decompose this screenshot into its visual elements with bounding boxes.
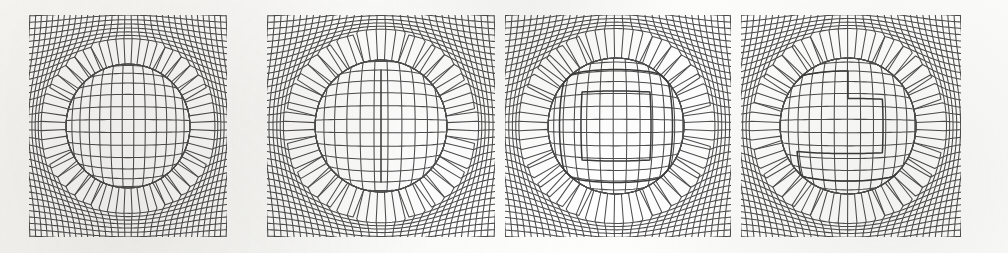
mesh-line-horizontal <box>741 6 960 15</box>
mesh-line-vertical <box>960 16 969 237</box>
mesh-line-vertical <box>21 16 30 236</box>
mesh-line-horizontal <box>731 136 969 146</box>
mesh-line-horizontal <box>502 198 733 224</box>
mesh-line-horizontal <box>268 7 494 16</box>
mesh-line-horizontal <box>265 35 498 62</box>
mesh-line-vertical <box>474 15 489 237</box>
panel-3-mesh-group <box>496 6 738 246</box>
mesh-line-horizontal <box>503 204 732 226</box>
mesh-line-vertical <box>80 11 101 241</box>
mesh-line-vertical <box>360 7 370 244</box>
mesh-line-vertical <box>269 15 281 236</box>
mesh-line-horizontal <box>260 136 502 146</box>
mesh-line-horizontal <box>737 189 964 215</box>
mesh-line-vertical <box>512 14 531 239</box>
mesh-line-horizontal <box>25 57 231 76</box>
mesh-line-horizontal <box>267 19 495 35</box>
mesh-line-vertical <box>635 7 652 245</box>
mesh-line-horizontal <box>500 177 735 197</box>
mesh-line-horizontal <box>29 217 227 228</box>
mesh-line-vertical <box>420 9 447 242</box>
mesh-line-horizontal <box>21 94 234 109</box>
mesh-line-vertical <box>941 14 956 237</box>
mesh-line-horizontal <box>22 150 234 169</box>
mesh-line-horizontal <box>262 163 500 190</box>
mesh-line-vertical <box>954 15 965 236</box>
mesh-line-horizontal <box>27 198 229 217</box>
mesh-line-horizontal <box>502 29 733 55</box>
mesh-line-horizontal <box>267 217 495 233</box>
panel-4 <box>0 0 1008 253</box>
mesh-line-horizontal <box>28 204 228 220</box>
mesh-line-vertical <box>384 7 388 245</box>
mesh-line-vertical <box>374 7 378 245</box>
mesh-line-horizontal <box>741 11 961 22</box>
mesh-line-horizontal <box>260 129 502 132</box>
mesh-line-horizontal <box>29 20 226 29</box>
mesh-line-vertical <box>446 12 474 239</box>
mesh-line-vertical <box>691 13 714 240</box>
mesh-line-vertical <box>335 8 357 244</box>
mesh-line-horizontal <box>731 143 968 159</box>
mesh-line-vertical <box>50 13 72 238</box>
mesh-line-horizontal <box>497 93 738 109</box>
mesh-line-vertical <box>861 6 873 245</box>
mesh-line-horizontal <box>30 230 227 237</box>
mesh-line-vertical <box>220 16 231 237</box>
mesh-line-horizontal <box>498 156 737 181</box>
mesh-line-vertical <box>683 12 711 240</box>
mesh-line-horizontal <box>260 143 501 159</box>
mesh-line-horizontal <box>505 11 730 23</box>
embedded-shape-square-1 <box>581 91 651 161</box>
embedded-shape-spiral <box>797 71 896 181</box>
mesh-line-vertical <box>488 16 498 237</box>
mesh-line-horizontal <box>24 64 232 82</box>
mesh-line-vertical <box>184 13 206 238</box>
mesh-line-horizontal <box>502 36 734 62</box>
mesh-line-vertical <box>538 11 560 242</box>
mesh-line-vertical <box>809 7 827 245</box>
mesh-line-vertical <box>149 11 166 241</box>
figure-root <box>0 0 1008 253</box>
mesh-line-horizontal <box>505 230 730 242</box>
mesh-line-horizontal <box>265 198 496 223</box>
mesh-line-horizontal <box>504 211 732 230</box>
mesh-line-horizontal <box>734 170 966 194</box>
mesh-line-horizontal <box>733 71 968 96</box>
mesh-line-vertical <box>875 7 897 244</box>
mesh-line-vertical <box>894 9 916 242</box>
mesh-line-vertical <box>155 11 176 241</box>
mesh-line-vertical <box>717 15 729 237</box>
mesh-line-horizontal <box>498 71 737 96</box>
mesh-line-horizontal <box>23 73 234 95</box>
mesh-line-horizontal <box>28 28 227 41</box>
panel-1 <box>0 0 1008 253</box>
mesh-line-vertical <box>494 16 502 236</box>
panel-1-background <box>30 16 226 236</box>
mesh-line-horizontal <box>731 93 968 109</box>
mesh-line-vertical <box>287 12 315 239</box>
mesh-line-horizontal <box>503 25 732 47</box>
mesh-line-vertical <box>192 14 215 238</box>
mesh-line-horizontal <box>24 170 232 188</box>
mesh-line-horizontal <box>505 223 731 237</box>
mesh-line-vertical <box>28 15 41 236</box>
mesh-line-vertical <box>209 15 224 237</box>
mesh-line-horizontal <box>506 236 731 245</box>
mesh-line-vertical <box>743 14 761 238</box>
mesh-line-horizontal <box>21 120 235 123</box>
mesh-line-horizontal <box>30 10 226 16</box>
mesh-line-vertical <box>516 13 538 239</box>
mesh-line-vertical <box>25 16 36 237</box>
mesh-line-vertical <box>554 8 580 243</box>
mesh-line-horizontal <box>741 224 962 238</box>
mesh-line-horizontal <box>741 236 960 245</box>
panel-4-mesh-group <box>731 6 969 246</box>
mesh-line-horizontal <box>261 156 500 182</box>
mesh-line-vertical <box>38 14 58 237</box>
mesh-line-vertical <box>902 10 923 241</box>
mesh-line-vertical <box>413 9 439 244</box>
mesh-line-horizontal <box>731 129 969 132</box>
mesh-line-horizontal <box>499 58 736 82</box>
mesh-line-horizontal <box>29 223 226 232</box>
